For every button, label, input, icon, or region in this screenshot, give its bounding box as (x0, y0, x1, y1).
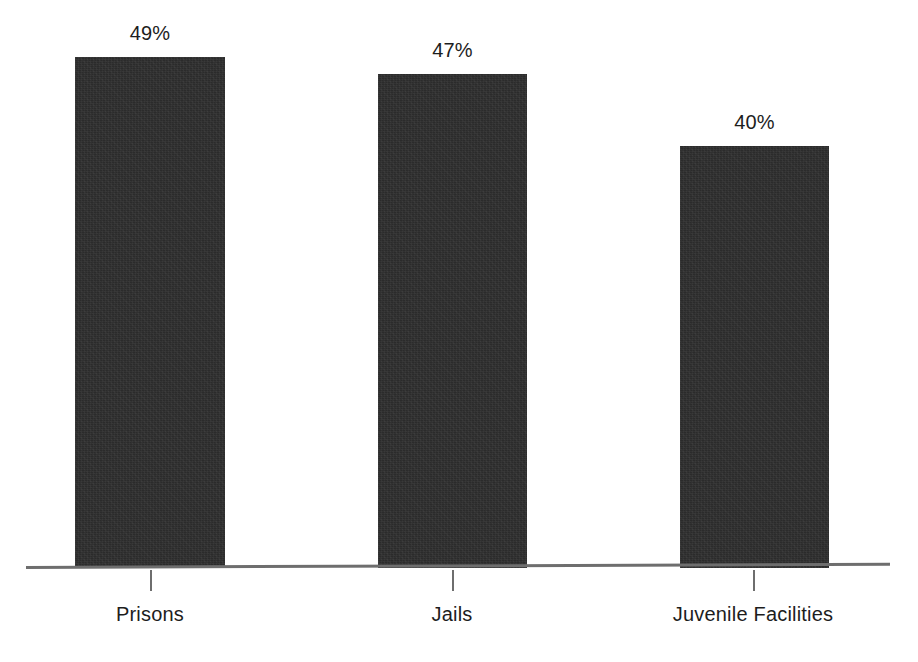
x-axis-tick-jails (452, 570, 454, 591)
x-axis-label-juvenile-facilities: Juvenile Facilities (628, 603, 878, 626)
value-label-jails: 47% (378, 39, 527, 62)
x-axis-label-jails: Jails (352, 603, 552, 626)
bar-juvenile-facilities (680, 146, 829, 568)
value-label-prisons: 49% (75, 22, 225, 45)
bar-prisons (75, 57, 225, 568)
x-axis-label-prisons: Prisons (50, 603, 250, 626)
plot-area: 49% 47% 40% Prisons Jails Juvenile Facil… (0, 0, 918, 662)
value-label-juvenile-facilities: 40% (680, 111, 829, 134)
bar-jails (378, 74, 527, 568)
bar-chart: 49% 47% 40% Prisons Jails Juvenile Facil… (0, 0, 918, 662)
x-axis-tick-juvenile-facilities (753, 570, 755, 591)
x-axis-tick-prisons (150, 570, 152, 591)
